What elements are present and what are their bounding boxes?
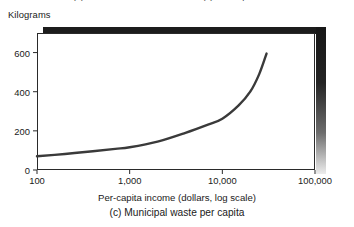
chart-figure: 0200400600 1001,00010,000100,000 Per-cap…: [0, 0, 354, 227]
x-axis-title: Per-capita income (dollars, log scale): [98, 192, 256, 203]
y-tick-label: 600: [0, 47, 30, 58]
y-tick-label: 400: [0, 86, 30, 97]
waste-per-capita-curve: [37, 54, 267, 157]
x-tick-label: 1,000: [118, 175, 141, 186]
y-axis-tick-marks: [33, 53, 37, 170]
y-tick-label: 0: [0, 165, 30, 176]
x-tick-label: 100: [29, 175, 45, 186]
figure-caption: (c) Municipal waste per capita: [110, 207, 245, 218]
y-tick-label: 200: [0, 125, 30, 136]
x-axis-tick-marks: [37, 170, 315, 174]
x-tick-label: 10,000: [208, 175, 237, 186]
x-tick-label: 100,000: [298, 175, 332, 186]
